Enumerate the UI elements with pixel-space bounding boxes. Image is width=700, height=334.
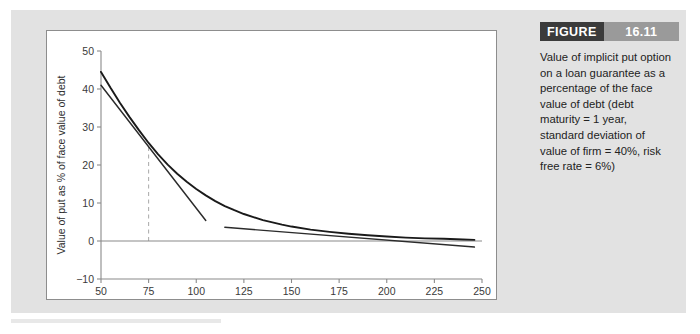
x-tick-label: 175 [330, 285, 348, 297]
chart-panel: −10010203040505075100125150175200225250F… [46, 30, 497, 300]
y-axis-title: Value of put as % of face value of debt [55, 75, 67, 254]
chart-axes [97, 51, 482, 283]
page-bottom-strip [11, 319, 221, 323]
figure-tag: FIGURE 16.11 [540, 22, 679, 41]
y-tick-label: −10 [76, 273, 94, 285]
x-tick-label: 125 [235, 285, 253, 297]
figure-card: −10010203040505075100125150175200225250F… [11, 10, 686, 313]
x-tick-label: 50 [95, 285, 107, 297]
figure-tag-number: 16.11 [604, 22, 679, 41]
y-tick-label: 30 [82, 121, 94, 133]
x-tick-label: 200 [378, 285, 396, 297]
chart-series [101, 72, 474, 247]
series-tangent-1 [101, 85, 206, 220]
figure-caption-text: Value of implicit put option on a loan g… [540, 50, 672, 175]
figure-root: −10010203040505075100125150175200225250F… [0, 0, 700, 334]
y-tick-label: 50 [82, 45, 94, 57]
x-tick-label: 100 [187, 285, 205, 297]
series-main-curve [101, 72, 474, 240]
x-tick-label: 75 [143, 285, 155, 297]
chart-svg: −10010203040505075100125150175200225250F… [47, 31, 498, 301]
x-tick-label: 250 [473, 285, 491, 297]
figure-caption-block: FIGURE 16.11 Value of implicit put optio… [540, 22, 685, 312]
figure-tag-word: FIGURE [540, 22, 604, 41]
x-tick-label: 225 [426, 285, 444, 297]
chart-labels: −10010203040505075100125150175200225250F… [55, 45, 491, 301]
series-tangent-2 [225, 227, 475, 247]
y-tick-label: 0 [88, 235, 94, 247]
y-tick-label: 10 [82, 197, 94, 209]
y-tick-label: 20 [82, 159, 94, 171]
y-tick-label: 40 [82, 83, 94, 95]
x-tick-label: 150 [283, 285, 301, 297]
